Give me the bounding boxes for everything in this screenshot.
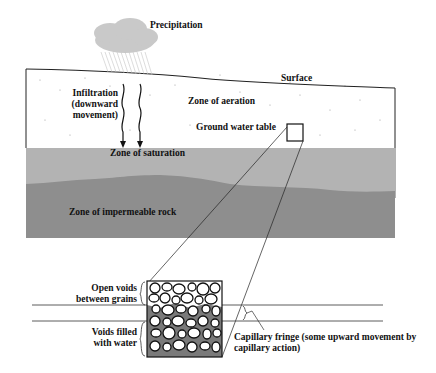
label-infiltration-1: Infiltration [73,88,118,99]
label-zone-saturation: Zone of saturation [110,148,185,159]
label-ground-water-table: Ground water table [196,122,276,133]
label-zone-aeration: Zone of aeration [188,96,255,107]
label-capillary-1: Capillary fringe (some upward movement b… [234,332,416,343]
label-capillary-2: capillary action) [234,343,300,354]
grain-detail [147,281,222,357]
label-open-voids-1: Open voids [91,283,137,294]
brace-open-voids [140,282,145,305]
label-voids-filled-1: Voids filled [92,327,137,338]
capillary-leader [247,311,264,330]
brace-capillary [243,306,247,320]
label-infiltration-3: movement) [73,110,118,121]
label-surface: Surface [281,73,312,84]
label-infiltration-2: (downward [72,99,118,110]
brace-voids-filled [140,322,145,356]
cloud-icon [94,18,158,53]
label-voids-filled-2: with water [93,338,137,349]
label-precipitation: Precipitation [150,20,203,31]
groundwater-diagram [0,0,436,373]
label-open-voids-2: between grains [76,294,137,305]
label-zone-impermeable: Zone of impermeable rock [69,207,176,218]
